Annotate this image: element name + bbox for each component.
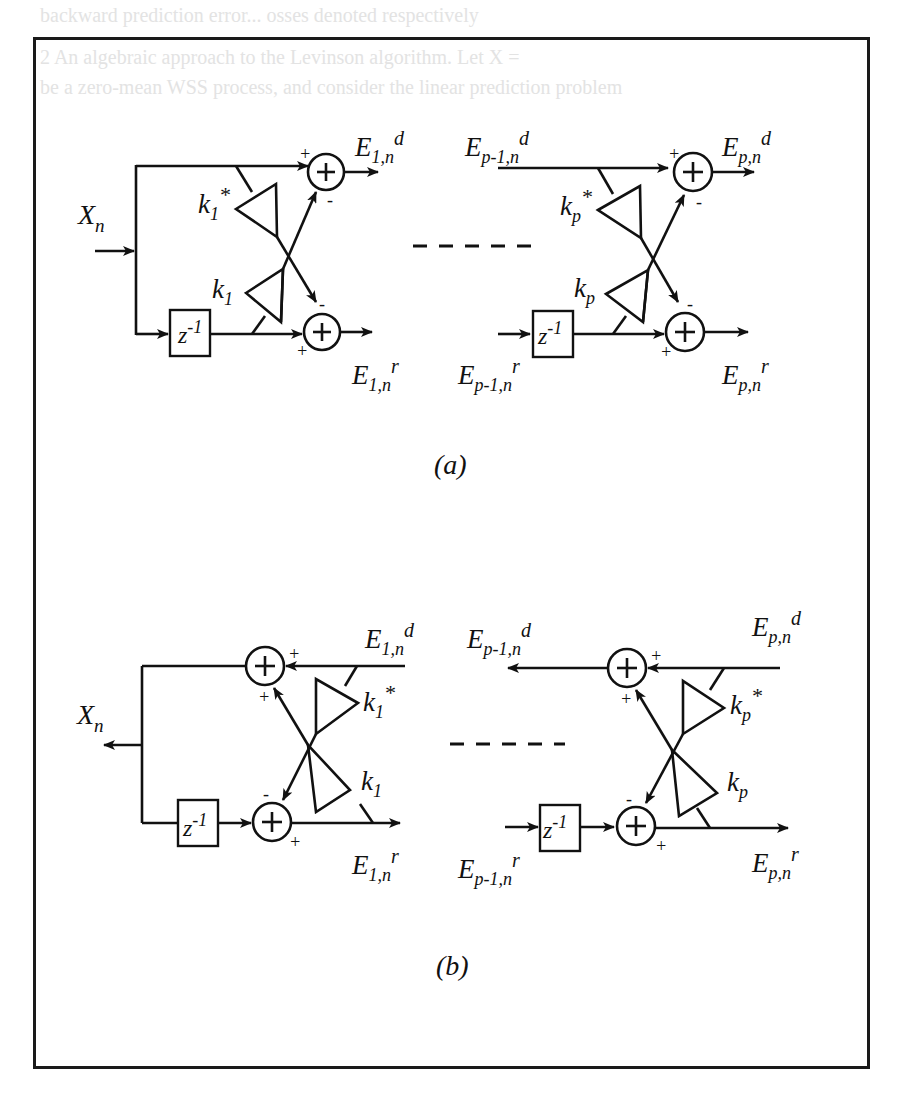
label-ep1n-r-a: Ep-1,nr xyxy=(457,355,520,395)
sign-ap-top-in: + xyxy=(668,144,680,164)
label-epn-d-a: Ep,nd xyxy=(721,127,772,167)
sign-bp-bot-cross: - xyxy=(626,789,632,809)
label-delay-bp: z-1 xyxy=(542,812,567,843)
gain-k1-triangle xyxy=(246,269,283,322)
sign-b1-bot-in: + xyxy=(289,832,301,852)
label-k1-a: k1 xyxy=(212,274,233,309)
label-xn-b: Xn xyxy=(76,699,104,736)
label-ep1n-d-a: Ep-1,nd xyxy=(464,127,530,167)
gain-k1-conj-triangle-b xyxy=(316,679,358,734)
label-xn-a: Xn xyxy=(77,199,105,236)
sign-bp-bot-in: + xyxy=(655,836,667,856)
label-e1n-r-b: E1,nr xyxy=(351,845,399,885)
label-kp-a: kp xyxy=(574,273,595,308)
label-ep1n-d-b: Ep-1,nd xyxy=(466,619,532,659)
label-k1-conj-b: k1* xyxy=(363,680,395,722)
gain-kp-conj-triangle-b xyxy=(683,681,724,734)
label-delay-a1: z-1 xyxy=(177,317,202,348)
label-e1n-d-a: E1,nd xyxy=(354,127,405,167)
gain-k1-conj-triangle xyxy=(236,184,277,237)
sign-b1-top-cross: + xyxy=(258,687,270,707)
label-k1-conj-a: k1* xyxy=(198,182,230,224)
gain-k1-triangle-b xyxy=(308,745,350,812)
sign-ap-bot-cross: - xyxy=(687,294,693,314)
sign-bp-top-cross: + xyxy=(620,689,632,709)
lattice-filter-diagram: Xn E1,nd Ep-1,nd Ep,nd k1* k1 kp* kp z-1… xyxy=(0,0,897,1095)
label-epn-r-a: Ep,nr xyxy=(721,355,769,395)
label-delay-ap: z-1 xyxy=(537,318,562,349)
label-e1n-r-a: E1,nr xyxy=(351,355,399,395)
gain-kp-triangle xyxy=(606,270,648,322)
label-epn-r-b: Ep,nr xyxy=(751,843,799,883)
sign-bp-top-in: + xyxy=(650,646,662,666)
sign-a1-bot-in: + xyxy=(296,341,308,361)
label-epn-d-b: Ep,nd xyxy=(751,607,802,647)
label-k1-b: k1 xyxy=(361,766,382,801)
label-kp-conj-a: kp* xyxy=(560,184,592,226)
sign-b1-bot-cross: - xyxy=(263,784,269,804)
cross-up-line xyxy=(283,192,316,269)
caption-a: (a) xyxy=(434,449,467,480)
caption-b: (b) xyxy=(436,950,469,981)
label-kp-conj-b: kp* xyxy=(730,683,762,725)
sign-a1-bot-cross: - xyxy=(319,294,325,314)
sign-ap-top-cross: - xyxy=(696,192,702,212)
sign-a1-top-cross: - xyxy=(327,190,333,210)
label-kp-b: kp xyxy=(727,767,748,802)
sign-b1-top-in: + xyxy=(288,644,300,664)
sign-ap-bot-in: + xyxy=(660,342,672,362)
sign-a1-top-in: + xyxy=(299,144,311,164)
gain-kp-conj-triangle xyxy=(598,186,641,238)
label-ep1n-r-b: Ep-1,nr xyxy=(457,849,520,889)
label-delay-b1: z-1 xyxy=(182,810,207,841)
label-e1n-d-b: E1,nd xyxy=(364,619,415,659)
gain-kp-triangle-b xyxy=(672,750,717,816)
